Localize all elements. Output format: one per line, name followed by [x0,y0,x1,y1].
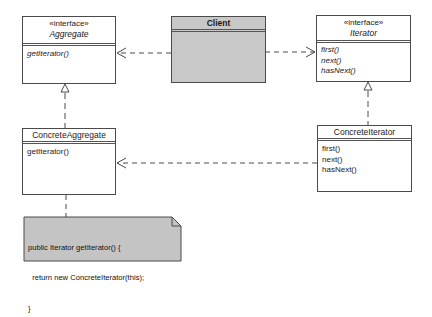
operations-compartment: getIterator() [23,46,115,63]
operation: hasNext() [321,66,406,77]
class-name: ConcreteIterator [318,127,411,137]
class-concrete-iterator[interactable]: ConcreteIterator first() next() hasNext(… [317,125,412,192]
realization-concrete-iterator [364,82,372,125]
operation: getIterator() [27,49,111,60]
realization-concrete-aggregate [61,84,69,128]
class-name: Client [172,18,265,28]
class-aggregate[interactable]: «interface» Aggregate getIterator() [22,16,116,84]
dependency-client-aggregate [117,48,171,58]
class-header: «interface» Iterator [317,16,410,43]
class-name: ConcreteAggregate [23,130,115,140]
stereotype-label: «interface» [317,18,410,28]
dependency-client-iterator [265,47,315,57]
class-concrete-aggregate[interactable]: ConcreteAggregate getIterator() [22,128,116,195]
dependency-iterator-aggregate [117,158,317,168]
operation: next() [322,155,407,166]
note-line: } [28,304,144,314]
operations-compartment: first() next() hasNext() [317,43,410,80]
class-header: ConcreteAggregate [23,129,115,144]
operation: next() [321,56,406,67]
stereotype-label: «interface» [23,19,115,29]
class-header: Client [172,17,265,32]
class-client[interactable]: Client [171,16,266,83]
class-header: ConcreteIterator [318,126,411,141]
class-name: Iterator [317,28,410,38]
note-text: public Iterator getIterator() { return n… [28,222,144,317]
note-line: return new ConcreteIterator(this); [28,273,144,283]
operation: hasNext() [322,165,407,176]
class-name: Aggregate [23,29,115,39]
operation: first() [322,144,407,155]
operation: getIterator() [27,147,111,158]
operations-compartment: first() next() hasNext() [318,141,411,179]
class-header: «interface» Aggregate [23,17,115,46]
operation: first() [321,45,406,56]
operations-compartment: getIterator() [23,144,115,161]
class-iterator[interactable]: «interface» Iterator first() next() hasN… [316,15,411,82]
note-line: public Iterator getIterator() { [28,243,144,253]
